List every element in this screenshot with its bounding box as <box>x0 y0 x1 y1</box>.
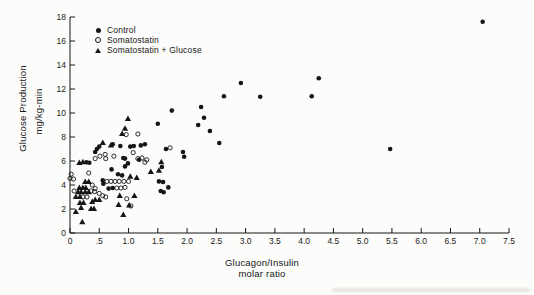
somatostatin-point <box>103 152 107 156</box>
control-point <box>109 167 114 172</box>
somatostatin-point <box>72 189 76 193</box>
control-point <box>87 161 92 166</box>
scatter-figure: Glucose Production mg/kg-min Glucagon/In… <box>0 0 534 295</box>
filled-circle-icon <box>96 28 101 33</box>
y-tick-label: 2 <box>46 205 66 214</box>
control-point <box>309 94 314 99</box>
somatostatin-glucose-point <box>77 194 83 200</box>
somatostatin-point <box>122 179 126 183</box>
control-point <box>132 144 137 149</box>
x-axis-title: Glucagon/Insulin molar ratio <box>182 257 342 279</box>
control-point <box>196 123 201 128</box>
x-tick-label: 0 <box>59 237 81 246</box>
somatostatin-glucose-point <box>131 192 137 198</box>
scan-artifact <box>332 288 530 292</box>
somatostatin-glucose-point <box>127 173 133 179</box>
legend-item-somatostatin: Somatostatin <box>93 35 202 45</box>
y-axis-title: Glucose Production <box>17 19 28 199</box>
control-point <box>239 81 244 86</box>
control-point <box>161 180 166 185</box>
somatostatin-point <box>98 154 102 158</box>
x-tick-label: 6.5 <box>439 237 461 246</box>
control-point <box>208 129 213 134</box>
y-tick-label: 8 <box>46 133 66 142</box>
control-point <box>143 142 148 147</box>
x-tick-label: 5.0 <box>352 237 374 246</box>
somatostatin-point <box>93 157 97 161</box>
somatostatin-glucose-point <box>122 125 128 131</box>
somatostatin-point <box>104 157 108 161</box>
control-point <box>316 76 321 81</box>
x-axis-title-line1: Glucagon/Insulin <box>182 257 342 268</box>
scatter-plot <box>0 0 534 295</box>
somatostatin-glucose-point <box>79 219 85 225</box>
somatostatin-point <box>126 179 130 183</box>
control-point <box>120 173 125 178</box>
somatostatin-point <box>119 186 123 190</box>
somatostatin-glucose-point <box>125 116 131 122</box>
x-tick-label: 2.0 <box>176 237 198 246</box>
x-tick-label: 4.0 <box>293 237 315 246</box>
control-point <box>170 108 175 113</box>
x-tick-label: 4.5 <box>322 237 344 246</box>
filled-triangle-icon <box>95 48 101 53</box>
somatostatin-glucose-point <box>120 212 126 218</box>
control-point <box>182 155 187 160</box>
control-point <box>480 20 485 25</box>
somatostatin-point <box>131 151 135 155</box>
x-tick-label: 3.0 <box>235 237 257 246</box>
somatostatin-point <box>87 171 91 175</box>
x-tick-label: 6.0 <box>410 237 432 246</box>
legend-label-somatostatin-glucose: Somatostatin + Glucose <box>107 45 202 55</box>
x-axis-title-line2: molar ratio <box>182 268 342 279</box>
somatostatin-glucose-point <box>126 202 132 208</box>
y-tick-label: 4 <box>46 181 66 190</box>
control-point <box>217 141 222 146</box>
somatostatin-point <box>140 156 144 160</box>
somatostatin-point <box>113 179 117 183</box>
x-tick-label: 7.5 <box>498 237 520 246</box>
somatostatin-point <box>115 186 119 190</box>
somatostatin-point <box>136 132 140 136</box>
legend-label-control: Control <box>107 25 136 35</box>
somatostatin-glucose-point <box>148 168 154 174</box>
y-tick-label: 16 <box>46 37 66 46</box>
somatostatin-glucose-point <box>78 204 84 210</box>
somatostatin-point <box>125 197 129 201</box>
control-point <box>123 164 128 169</box>
control-point <box>106 186 111 191</box>
somatostatin-glucose-point <box>100 140 106 146</box>
somatostatin-point <box>105 179 109 183</box>
control-point <box>202 116 207 121</box>
somatostatin-glucose-point <box>134 174 140 180</box>
somatostatin-point <box>85 195 89 199</box>
y-tick-label: 12 <box>46 85 66 94</box>
somatostatin-point <box>112 154 116 158</box>
y-axis-units: mg/kg-min <box>33 22 44 202</box>
control-point <box>118 144 123 149</box>
legend-item-somatostatin-glucose: Somatostatin + Glucose <box>93 45 202 55</box>
control-point <box>116 172 121 177</box>
x-tick-label: 1.0 <box>118 237 140 246</box>
control-point <box>139 143 144 148</box>
control-point <box>199 105 204 110</box>
control-point <box>157 179 162 184</box>
x-tick-label: 1.5 <box>147 237 169 246</box>
y-tick-label: 18 <box>46 13 66 22</box>
legend-item-control: Control <box>93 25 202 35</box>
control-point <box>388 147 393 152</box>
control-point <box>161 190 166 195</box>
y-tick-label: 6 <box>46 157 66 166</box>
control-point <box>181 150 186 155</box>
somatostatin-point <box>168 146 172 150</box>
x-tick-label: 3.5 <box>264 237 286 246</box>
somatostatin-glucose-point <box>117 192 123 198</box>
control-point <box>222 94 227 99</box>
legend-label-somatostatin: Somatostatin <box>107 35 159 45</box>
x-tick-label: .5 <box>88 237 110 246</box>
control-point <box>258 95 263 100</box>
legend: Control Somatostatin Somatostatin + Gluc… <box>93 25 202 55</box>
somatostatin-point <box>109 179 113 183</box>
open-circle-icon <box>95 37 101 43</box>
y-tick-label: 14 <box>46 61 66 70</box>
